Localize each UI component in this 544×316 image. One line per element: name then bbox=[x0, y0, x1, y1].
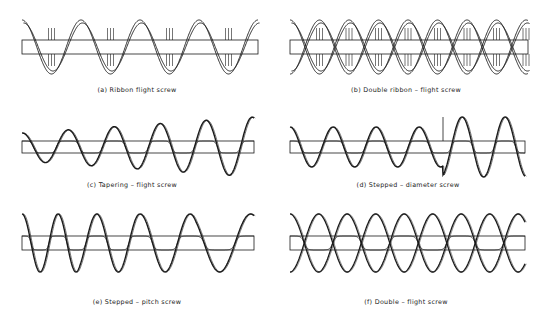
shaft bbox=[290, 40, 528, 54]
stepped-pitch-flight bbox=[22, 214, 254, 272]
caption-ribbon-flight: (a) Ribbon flight screw bbox=[97, 86, 176, 94]
screw-drawings bbox=[0, 0, 544, 316]
shaft-helix bbox=[22, 236, 254, 250]
shaft bbox=[22, 40, 258, 54]
shaft bbox=[22, 236, 254, 250]
caption-double-ribbon: (b) Double ribbon – flight screw bbox=[351, 86, 461, 94]
screw-conveyor-figure: (a) Ribbon flight screw (b) Double ribbo… bbox=[0, 0, 544, 316]
caption-double-flight: (f) Double – flight screw bbox=[364, 298, 448, 306]
double-flight-edge bbox=[291, 214, 526, 272]
ribbon-inner-edge bbox=[24, 23, 260, 71]
caption-tapering-flight: (c) Tapering – flight screw bbox=[87, 181, 177, 189]
stepped-pitch-flight-edge bbox=[23, 214, 255, 272]
ribbon-outer-edge bbox=[290, 20, 528, 74]
tapering-flight-edge bbox=[23, 117, 255, 175]
double-flight-edge bbox=[291, 214, 526, 272]
shaft bbox=[290, 236, 525, 250]
shaft-helix bbox=[290, 236, 525, 250]
ribbon-outer-edge bbox=[22, 20, 258, 74]
caption-stepped-pitch: (e) Stepped – pitch screw bbox=[93, 298, 182, 306]
stepped-diameter-flight bbox=[290, 117, 525, 177]
ribbon-outer-edge bbox=[290, 20, 528, 74]
caption-stepped-diameter: (d) Stepped – diameter screw bbox=[357, 181, 460, 189]
